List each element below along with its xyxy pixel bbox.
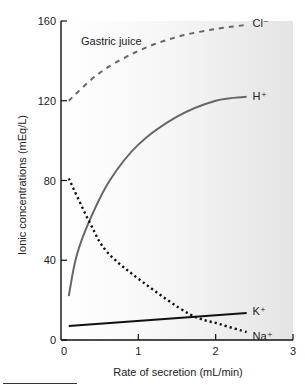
- footnote-divider: [3, 383, 77, 384]
- series-label-1: H⁺: [253, 90, 267, 102]
- y-tick-label: 120: [38, 95, 56, 107]
- x-tick-label: 3: [290, 345, 296, 357]
- plot-background: [62, 21, 293, 340]
- chart: 040801201600123 Cl⁻H⁺Na⁺K⁺ Gastric juice…: [0, 0, 305, 385]
- y-tick-label: 160: [38, 15, 56, 27]
- series-label-3: K⁺: [253, 305, 266, 317]
- annotation-gastric-juice: Gastric juice: [81, 35, 142, 47]
- y-axis-title: Ionic concentrations (mEq/L): [16, 115, 28, 255]
- series-label-2: Na⁺: [253, 330, 273, 342]
- y-tick-label: 80: [44, 175, 56, 187]
- y-tick-label: 40: [44, 254, 56, 266]
- x-tick-label: 1: [135, 345, 141, 357]
- y-tick-label: 0: [50, 334, 56, 346]
- series-label-0: Cl⁻: [253, 17, 269, 29]
- x-tick-label: 2: [213, 345, 219, 357]
- x-tick-label: 0: [61, 345, 67, 357]
- x-axis-title: Rate of secretion (mL/min): [113, 366, 243, 378]
